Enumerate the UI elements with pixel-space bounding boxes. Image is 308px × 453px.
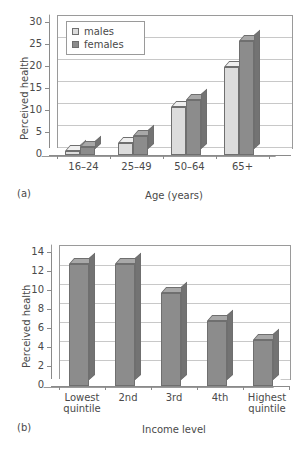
bar-front bbox=[80, 147, 95, 155]
panel-tag-a: (a) bbox=[17, 188, 31, 199]
chart-a-ytick-5: 5 bbox=[24, 127, 42, 137]
bar-lowest-quintile bbox=[69, 264, 89, 386]
chart-a-x-axis-label: Age (years) bbox=[57, 190, 291, 201]
bar-front bbox=[186, 100, 201, 155]
bar-front bbox=[161, 293, 181, 386]
bar-front bbox=[171, 107, 186, 155]
chart-b-y-axis bbox=[51, 252, 52, 386]
bar-males-16-24 bbox=[65, 151, 80, 155]
bar-side-face bbox=[254, 30, 260, 149]
bar-front bbox=[224, 67, 239, 155]
legend-item-females: females bbox=[72, 38, 138, 51]
chart-b-ytick-2: 2 bbox=[26, 361, 44, 371]
chart-a-xtick-mark bbox=[216, 155, 217, 159]
bar-front bbox=[115, 264, 135, 386]
bar-front bbox=[118, 143, 133, 155]
bar-side-face bbox=[181, 282, 187, 380]
bar-front bbox=[253, 340, 273, 386]
chart-b-xtick-mark bbox=[151, 386, 152, 390]
chart-b-xtick-line2: quintile bbox=[239, 403, 295, 414]
chart-a-xtick-mark bbox=[110, 155, 111, 159]
chart-a-xtick-mark bbox=[163, 155, 164, 159]
legend-label-males: males bbox=[84, 26, 114, 37]
chart-a-xtick-50-64: 50–64 bbox=[163, 161, 216, 172]
chart-b-ytick-10: 10 bbox=[26, 285, 44, 295]
chart-b-xtick-line1: Highest bbox=[239, 392, 295, 403]
panel-tag-b: (b) bbox=[17, 422, 31, 433]
chart-b-ytick-12: 12 bbox=[26, 266, 44, 276]
bar-2nd-quintile bbox=[115, 264, 135, 386]
bar-front bbox=[239, 41, 254, 155]
bar-males-25-49 bbox=[118, 143, 133, 155]
chart-a-legend: males females bbox=[66, 21, 145, 55]
chart-b-xtick-mark bbox=[197, 386, 198, 390]
bar-side-face bbox=[135, 253, 141, 380]
legend-label-females: females bbox=[84, 39, 124, 50]
chart-a-x-axis bbox=[49, 155, 291, 156]
bar-females-65-plus bbox=[239, 41, 254, 155]
chart-b-xtick-mark bbox=[59, 386, 60, 390]
chart-a-ytick-30: 30 bbox=[24, 17, 42, 27]
bar-side-face bbox=[89, 253, 95, 380]
chart-a-xtick-25-49: 25–49 bbox=[110, 161, 163, 172]
bar-side-face bbox=[201, 89, 207, 149]
chart-a-ytick-25: 25 bbox=[24, 39, 42, 49]
chart-a-xtick-16-24: 16–24 bbox=[57, 161, 110, 172]
bar-highest-quintile bbox=[253, 340, 273, 386]
chart-b-xtick-mark bbox=[105, 386, 106, 390]
chart-b-ytick-14: 14 bbox=[26, 247, 44, 257]
figure-b: Perceived health 14 12 10 8 6 4 2 0 bbox=[0, 226, 308, 453]
chart-b-ytick-0: 0 bbox=[26, 380, 44, 390]
bar-females-16-24 bbox=[80, 147, 95, 155]
legend-swatch-males-icon bbox=[72, 28, 79, 35]
chart-b-ytick-4: 4 bbox=[26, 342, 44, 352]
chart-b-xtick-mark bbox=[289, 386, 290, 390]
bar-front bbox=[133, 136, 148, 155]
bar-front bbox=[65, 151, 80, 155]
chart-b-ytick-8: 8 bbox=[26, 304, 44, 314]
bar-males-50-64 bbox=[171, 107, 186, 155]
bar-females-50-64 bbox=[186, 100, 201, 155]
chart-a-ytick-15: 15 bbox=[24, 83, 42, 93]
chart-b-x-axis-label: Income level bbox=[59, 424, 289, 435]
bar-front bbox=[69, 264, 89, 386]
chart-a-xtick-65-plus: 65+ bbox=[216, 161, 269, 172]
chart-b-x-axis bbox=[51, 386, 289, 387]
bar-side-face bbox=[227, 310, 233, 380]
legend-swatch-females-icon bbox=[72, 41, 79, 48]
chart-a-ytick-10: 10 bbox=[24, 105, 42, 115]
chart-b-xtick-mark bbox=[243, 386, 244, 390]
bar-front bbox=[207, 321, 227, 386]
chart-b-xtick-highest-quintile: Highest quintile bbox=[239, 392, 295, 414]
bar-side-face bbox=[273, 329, 279, 380]
bar-3rd-quintile bbox=[161, 293, 181, 386]
chart-a-xtick-mark bbox=[269, 155, 270, 159]
figure-a: Perceived health 30 25 20 15 10 5 0 bbox=[0, 0, 308, 226]
bar-females-25-49 bbox=[133, 136, 148, 155]
chart-a-y-axis bbox=[49, 22, 50, 155]
chart-a-ytick-0: 0 bbox=[24, 149, 42, 159]
chart-a-xtick-mark bbox=[57, 155, 58, 159]
chart-a-ytick-20: 20 bbox=[24, 61, 42, 71]
legend-item-males: males bbox=[72, 25, 138, 38]
chart-b-ytick-6: 6 bbox=[26, 323, 44, 333]
bar-4th-quintile bbox=[207, 321, 227, 386]
chart-b-xtick-line2: quintile bbox=[55, 403, 109, 414]
bar-males-65-plus bbox=[224, 67, 239, 155]
